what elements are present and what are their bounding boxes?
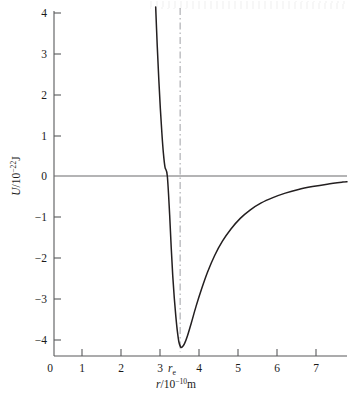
x-tick-label: 4 [196,362,202,374]
x-tick-label: 2 [118,362,124,374]
x-tick-marks [82,349,316,356]
y-tick-label: 2 [41,89,47,101]
y-tick-label: −1 [35,211,47,223]
potential-energy-curve [156,7,347,348]
x-tick-label: 7 [313,362,319,374]
x-tick-label: 1 [79,362,85,374]
x-tick-label: 3 [157,362,163,374]
x-tick-labels: 0 1 2 3 4 5 6 7 [47,362,319,374]
y-tick-labels: 4 3 2 1 0 −1 −2 −3 −4 [35,7,48,346]
y-axis-title: U/10−22J [9,156,22,196]
x-axis-unit: m [187,378,196,390]
y-tick-label: −3 [35,293,47,305]
y-axis-divider: /10 [10,172,22,187]
x-tick-label-origin: 0 [47,362,53,374]
x-axis-exponent: −10 [175,377,187,386]
y-axis-exponent: −22 [9,161,18,173]
y-tick-label: 0 [41,170,47,182]
y-tick-label: 1 [41,130,47,142]
y-tick-label: −4 [35,334,47,346]
y-axis-unit: J [10,156,22,161]
x-axis-title: r/10−10m [156,377,196,390]
x-tick-label: 6 [274,362,280,374]
x-tick-label: 5 [235,362,241,374]
y-tick-label: 3 [41,48,47,60]
y-tick-label: 4 [41,7,47,19]
x-axis-divider: /10 [160,378,175,390]
y-tick-label: −2 [35,252,47,264]
potential-energy-chart: 4 3 2 1 0 −1 −2 −3 −4 0 1 2 3 4 5 6 7 re… [0,0,355,393]
equilibrium-separation-label: re [168,362,176,377]
plot-canvas: 4 3 2 1 0 −1 −2 −3 −4 0 1 2 3 4 5 6 7 re… [0,0,355,393]
equilibrium-subscript: e [173,368,177,377]
